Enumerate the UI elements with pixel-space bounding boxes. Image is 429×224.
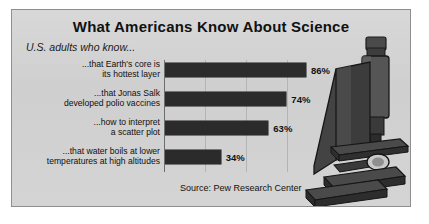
bar-category-label: ...that Jonas Salk developed polio vacci… — [18, 89, 160, 108]
bar-row: ...that Earth's core is its hottest laye… — [12, 58, 411, 82]
bar-category-label: ...that Earth's core is its hottest laye… — [18, 60, 160, 79]
bar-container: 34% — [165, 145, 245, 169]
bar-value-label: 34% — [226, 152, 245, 163]
bar — [165, 150, 221, 164]
bar — [165, 121, 268, 135]
bar-value-label: 86% — [311, 65, 330, 76]
bar — [165, 63, 306, 77]
bar-container: 63% — [165, 116, 292, 140]
bar-category-label: ...that water boils at lower temperature… — [18, 147, 160, 166]
chart-figure: What Americans Know About Science U.S. a… — [0, 0, 429, 224]
value-axis-line — [164, 60, 165, 172]
bar-category-label: ...how to interpret a scatter plot — [18, 118, 160, 137]
bar-value-label: 74% — [291, 94, 310, 105]
bar-row: ...that water boils at lower temperature… — [12, 145, 411, 169]
bar — [165, 92, 286, 106]
bar-row: ...that Jonas Salk developed polio vacci… — [12, 87, 411, 111]
bar-container: 74% — [165, 87, 310, 111]
bar-rows: ...that Earth's core is its hottest laye… — [12, 56, 411, 176]
bar-value-label: 63% — [273, 123, 292, 134]
bar-row: ...how to interpret a scatter plot63% — [12, 116, 411, 140]
chart-subtitle: U.S. adults who know... — [26, 41, 135, 53]
plot-area: ...that Earth's core is its hottest laye… — [12, 56, 411, 176]
source-note: Source: Pew Research Center — [180, 183, 302, 193]
bar-container: 86% — [165, 58, 330, 82]
chart-title: What Americans Know About Science — [12, 18, 410, 35]
chart-panel: What Americans Know About Science U.S. a… — [11, 9, 411, 207]
